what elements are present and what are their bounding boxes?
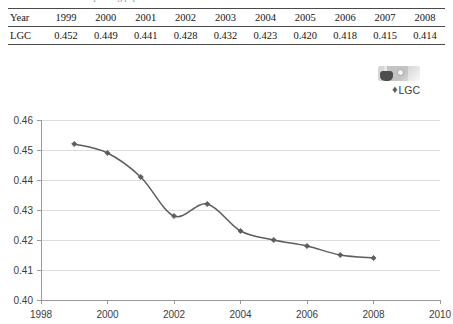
table-cell: 2000	[86, 9, 126, 27]
data-point-marker	[371, 255, 376, 260]
y-axis-tick-label: 0.42	[14, 235, 34, 246]
legend-item-label: LGC	[399, 84, 421, 96]
table-cell: 0.428	[166, 27, 206, 45]
table-cell: 0.432	[206, 27, 246, 45]
data-point-marker	[271, 237, 276, 242]
table-cell: 2006	[325, 9, 365, 27]
table-cell: 2003	[206, 9, 246, 27]
series-line	[74, 144, 373, 258]
y-axis-tick-label: 0.41	[14, 265, 34, 276]
data-table-body: Year 1999 2000 2001 2002 2003 2004 2005 …	[8, 9, 445, 45]
y-axis-labels: 0.400.410.420.430.440.450.46	[14, 115, 34, 306]
table-cell: 2005	[285, 9, 325, 27]
diamond-marker-icon: ♦	[392, 84, 398, 95]
data-table: Year 1999 2000 2001 2002 2003 2004 2005 …	[8, 8, 445, 45]
table-cell: 0.441	[126, 27, 166, 45]
x-axis-ticks	[41, 300, 440, 304]
table-row-header: Year	[8, 9, 46, 27]
x-axis-tick-label: 2002	[163, 309, 186, 320]
data-point-marker	[105, 150, 110, 155]
y-axis-tick-label: 0.46	[14, 115, 34, 126]
thumbnail-image-artifact-icon	[378, 66, 420, 81]
data-point-marker	[304, 243, 309, 248]
y-axis-tick-label: 0.44	[14, 175, 34, 186]
chart-canvas: 0.400.410.420.430.440.450.46 19982000200…	[0, 112, 453, 324]
y-axis-ticks	[37, 120, 41, 300]
data-point-marker	[338, 252, 343, 257]
data-point-marker	[72, 141, 77, 146]
table-row: LGC 0.452 0.449 0.441 0.428 0.432 0.423 …	[8, 27, 445, 45]
table-cell: 1999	[46, 9, 86, 27]
data-point-marker	[205, 201, 210, 206]
legend-item-lgc[interactable]: ♦ LGC	[372, 84, 440, 96]
table-row: Year 1999 2000 2001 2002 2003 2004 2005 …	[8, 9, 445, 27]
table-row-header: LGC	[8, 27, 46, 45]
y-axis-tick-label: 0.45	[14, 145, 34, 156]
table-cell: 0.449	[86, 27, 126, 45]
table-cell: 2001	[126, 9, 166, 27]
x-axis-tick-label: 2008	[362, 309, 385, 320]
x-axis-tick-label: 1998	[30, 309, 53, 320]
table-cell: 0.420	[285, 27, 325, 45]
table-cell: 2008	[405, 9, 445, 27]
x-axis-tick-label: 2010	[429, 309, 452, 320]
y-axis-tick-label: 0.43	[14, 205, 34, 216]
caption-sliver: ratio for printing papers	[62, 0, 262, 2]
x-axis-labels: 1998200020022004200620082010	[30, 309, 452, 320]
y-axis-tick-label: 0.40	[14, 295, 34, 306]
table-cell: 2002	[166, 9, 206, 27]
table-cell: 2007	[365, 9, 405, 27]
data-point-marker	[171, 213, 176, 218]
table-cell: 0.415	[365, 27, 405, 45]
x-axis-tick-label: 2004	[229, 309, 252, 320]
gridlines	[41, 120, 440, 270]
series-lines	[74, 144, 373, 258]
table-cell: 0.452	[46, 27, 86, 45]
x-axis-tick-label: 2000	[96, 309, 119, 320]
line-chart: 0.400.410.420.430.440.450.46 19982000200…	[0, 112, 453, 324]
x-axis-tick-label: 2006	[296, 309, 319, 320]
table-cell: 0.423	[245, 27, 285, 45]
table-cell: 0.418	[325, 27, 365, 45]
table-cell: 2004	[245, 9, 285, 27]
table-cell: 0.414	[405, 27, 445, 45]
